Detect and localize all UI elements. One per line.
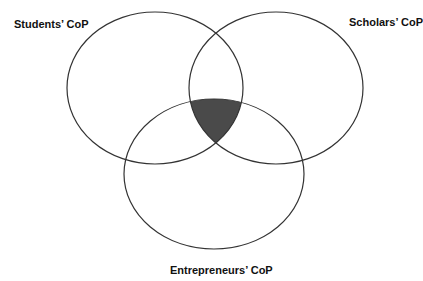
triple-intersection-region	[124, 99, 304, 249]
entrepreneurs-cop-label: Entrepreneurs’ CoP	[170, 264, 273, 276]
students-cop-label: Students’ CoP	[14, 18, 89, 30]
scholars-cop-label: Scholars’ CoP	[349, 16, 423, 28]
venn-diagram	[0, 0, 423, 281]
